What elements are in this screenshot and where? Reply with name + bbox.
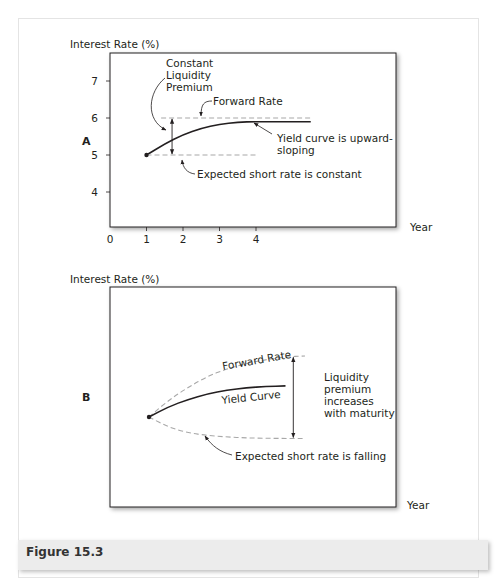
panel-b-letter: B bbox=[82, 391, 90, 404]
panel-a-ylabel: Interest Rate (%) bbox=[70, 38, 159, 50]
annotation-constant-liquidity-premium: Constant Liquidity Premium bbox=[166, 57, 217, 93]
annotation-expected-constant: Expected short rate is constant bbox=[197, 168, 362, 180]
yield-curve-start-point bbox=[147, 415, 151, 419]
annotation-b-expected-falling: Expected short rate is falling bbox=[235, 450, 386, 462]
x-tick-label: 4 bbox=[253, 233, 260, 245]
y-tick-label: 7 bbox=[91, 75, 98, 87]
x-tick-label: 1 bbox=[143, 233, 150, 245]
panel-a-letter: A bbox=[82, 135, 91, 148]
panel-b-xlabel: Year bbox=[406, 499, 430, 511]
annotation-forward-rate: Forward Rate bbox=[213, 95, 283, 107]
x-tick-label: 3 bbox=[216, 233, 223, 245]
yield-curve-start-point bbox=[144, 153, 148, 157]
x-tick-label: 2 bbox=[180, 233, 187, 245]
y-tick-label: 6 bbox=[91, 112, 98, 124]
panel-b-ylabel: Interest Rate (%) bbox=[70, 273, 159, 285]
y-tick-label: 4 bbox=[91, 186, 98, 198]
x-tick-label: 0 bbox=[107, 233, 114, 245]
panel-a-xlabel: Year bbox=[409, 221, 433, 233]
y-tick-label: 5 bbox=[91, 149, 98, 161]
panel-a: Interest Rate (%) A Year 4567 01234 Cons… bbox=[70, 38, 433, 245]
panel-b: Interest Rate (%) B Year Forward Rate Yi… bbox=[70, 273, 430, 511]
